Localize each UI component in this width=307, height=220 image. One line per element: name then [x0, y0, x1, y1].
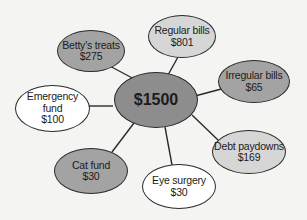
link-regular-bills: [168, 57, 178, 75]
link-debt-paydowns: [192, 115, 218, 140]
node-label: Irregular bills: [225, 70, 282, 82]
link-eye-surgery: [165, 127, 172, 165]
link-cat-fund: [112, 123, 134, 152]
node-eye-surgery: Eye surgery $30: [142, 164, 216, 209]
node-bettys-treats: Betty's treats $275: [57, 30, 125, 72]
node-amount: $65: [246, 82, 263, 94]
center-node-total: $1500: [114, 72, 198, 128]
node-debt-paydowns: Debt paydowns $169: [212, 130, 286, 174]
node-irregular-bills: Irregular bills $65: [218, 60, 290, 103]
node-emergency-fund: Emergency fund $100: [15, 85, 90, 132]
node-cat-fund: Cat fund $30: [54, 148, 128, 194]
node-amount: $30: [171, 187, 188, 199]
node-amount: $100: [41, 114, 64, 126]
node-label: Regular bills: [154, 25, 209, 37]
node-amount: $169: [238, 152, 261, 164]
node-label: Eye surgery: [152, 175, 206, 187]
budget-mind-map: $1500 Regular bills $801 Betty's treats …: [0, 0, 307, 220]
node-amount: $275: [80, 51, 103, 63]
total-amount: $1500: [134, 91, 179, 109]
node-regular-bills: Regular bills $801: [148, 15, 216, 58]
node-amount: $30: [83, 171, 100, 183]
node-amount: $801: [171, 37, 194, 49]
